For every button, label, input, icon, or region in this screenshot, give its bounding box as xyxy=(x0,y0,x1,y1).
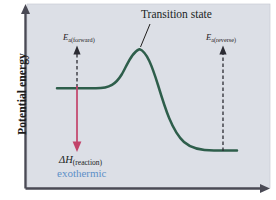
energy-profile-figure: Potential energy Transition state Ea(for… xyxy=(0,0,276,200)
ea-reverse-label: Ea(reverse) xyxy=(206,33,236,42)
plot-canvas xyxy=(0,0,276,200)
delta-h-label: ΔH(reaction) xyxy=(59,155,102,166)
exothermic-label: exothermic xyxy=(57,168,106,179)
ea-forward-label: Ea(forward) xyxy=(63,33,95,42)
delta-h-symbol: ΔH xyxy=(59,154,73,165)
transition-state-label: Transition state xyxy=(141,9,212,21)
delta-h-subscript: (reaction) xyxy=(73,158,102,167)
ea-forward-subscript: a(forward) xyxy=(68,36,94,43)
y-axis-title: Potential energy xyxy=(16,39,28,149)
ea-reverse-subscript: a(reverse) xyxy=(211,36,236,43)
